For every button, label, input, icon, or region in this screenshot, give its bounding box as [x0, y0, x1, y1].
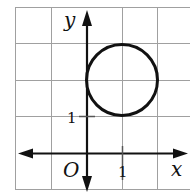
grid-border	[16, 8, 191, 190]
origin-label: O	[63, 158, 79, 182]
x-axis-left-arrow-icon	[18, 149, 33, 159]
x-tick-label: 1	[118, 163, 128, 181]
y-axis-label: y	[63, 8, 76, 32]
y-axis-up-arrow-icon	[82, 10, 92, 26]
x-axis-label: x	[171, 157, 182, 181]
y-tick-label: 1	[67, 109, 77, 127]
grid	[15, 7, 190, 190]
coordinate-plane: y x O 1 1	[0, 0, 190, 196]
